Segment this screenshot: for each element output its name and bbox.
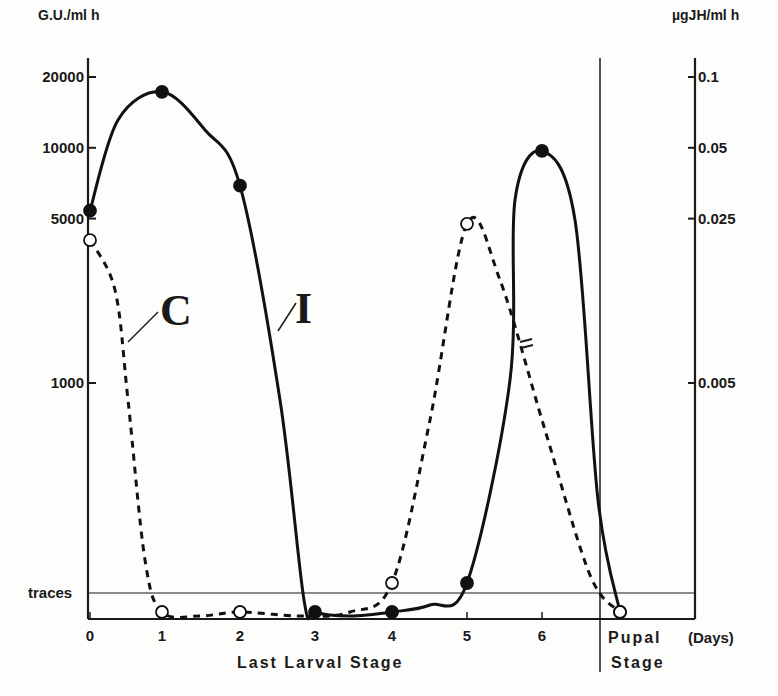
data-point-i: [386, 606, 398, 618]
data-point-c: [234, 606, 246, 618]
right-tick-label: 0.1: [698, 68, 719, 85]
right-axis-label: µgJH/ml h: [672, 7, 739, 23]
x-tick-label: 5: [463, 627, 471, 644]
data-point-c: [614, 606, 626, 618]
right-tick-label: 0.05: [698, 139, 727, 156]
data-point-i: [309, 606, 321, 618]
annotation-i: I: [295, 284, 312, 333]
break-mark: [521, 345, 533, 348]
data-point-c: [386, 577, 398, 589]
data-point-i: [536, 145, 548, 157]
right-tick-label: 0.025: [698, 210, 736, 227]
x-tick-label: 4: [388, 627, 397, 644]
traces-label: traces: [28, 584, 72, 601]
left-tick-label: 5000: [51, 210, 84, 227]
x-tick-label: 6: [538, 627, 546, 644]
data-point-i: [156, 86, 168, 98]
pupal-label-bottom: Stage: [611, 654, 665, 671]
data-point-c: [461, 218, 473, 230]
right-tick-label: 0.005: [698, 374, 736, 391]
data-point-i: [461, 577, 473, 589]
x-tick-label: 0: [86, 627, 94, 644]
x-tick-label: 2: [236, 627, 244, 644]
x-tick-label: 1: [158, 627, 166, 644]
data-point-c: [156, 606, 168, 618]
data-point-c: [84, 234, 96, 246]
left-axis-label: G.U./ml h: [38, 7, 99, 23]
x-tick-label: 3: [311, 627, 319, 644]
left-tick-label: 20000: [42, 68, 84, 85]
break-mark: [520, 339, 532, 342]
annotation-c: C: [160, 286, 192, 335]
data-point-i: [234, 180, 246, 192]
chart: G.U./ml h µgJH/ml h traces 2000010000500…: [0, 0, 778, 696]
left-tick-label: 1000: [51, 374, 84, 391]
annotation-c-pointer: [128, 312, 158, 342]
x-unit-label: (Days): [688, 629, 734, 646]
larval-stage-label: Last Larval Stage: [237, 654, 404, 671]
annotation-i-pointer: [278, 303, 296, 331]
pupal-label-top: Pupal: [608, 629, 662, 646]
series-line-i: [90, 92, 620, 619]
data-point-i: [84, 205, 96, 217]
series-line-c: [90, 217, 620, 617]
left-tick-label: 10000: [42, 139, 84, 156]
